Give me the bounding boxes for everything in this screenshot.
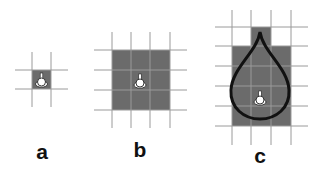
panel-label-b: b	[134, 138, 147, 161]
panel-b: b	[94, 32, 187, 161]
figure: a b	[0, 0, 321, 170]
panel-label-c: c	[254, 144, 266, 167]
panel-c: c	[215, 10, 308, 167]
panel-a: a	[15, 52, 68, 163]
panel-label-a: a	[36, 140, 48, 163]
